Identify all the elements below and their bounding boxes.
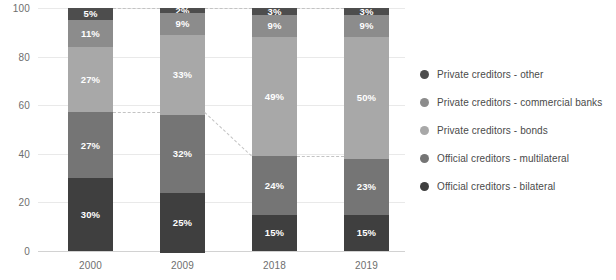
connector-bonds-2018-2019 bbox=[297, 156, 344, 157]
connector-bonds-2009-2018 bbox=[204, 112, 252, 156]
bar-2000[interactable]: 5%11%27%27%30%2000 bbox=[68, 8, 113, 251]
legend-label: Private creditors - other bbox=[437, 69, 543, 80]
bar-segment[interactable]: 27% bbox=[68, 112, 113, 178]
bar-2018[interactable]: 3%9%49%24%15%2018 bbox=[252, 8, 297, 251]
x-axis-tick-label: 2000 bbox=[68, 260, 113, 271]
bar-segment[interactable]: 23% bbox=[344, 159, 389, 215]
bar-2009[interactable]: 2%9%33%32%25%2009 bbox=[160, 8, 205, 251]
bar-segment[interactable]: 9% bbox=[160, 13, 205, 35]
segment-value-label: 23% bbox=[357, 182, 376, 192]
legend-item[interactable]: Official creditors - multilateral bbox=[420, 144, 610, 172]
x-axis-tick-label: 2009 bbox=[160, 260, 205, 271]
segment-value-label: 15% bbox=[265, 228, 284, 238]
y-axis-tick-label: 80 bbox=[18, 51, 30, 62]
segment-value-label: 30% bbox=[81, 210, 100, 220]
segment-value-label: 3% bbox=[268, 8, 282, 15]
connector-bonds-2000-2009 bbox=[113, 112, 160, 113]
bar-segment[interactable]: 9% bbox=[344, 15, 389, 37]
y-axis-tick-label: 0 bbox=[24, 246, 30, 257]
segment-value-label: 25% bbox=[173, 218, 192, 228]
y-axis-tick-label: 20 bbox=[18, 197, 30, 208]
bar-segment[interactable]: 27% bbox=[68, 47, 113, 113]
chart-legend: Private creditors - otherPrivate credito… bbox=[420, 60, 610, 200]
bar-segment[interactable]: 49% bbox=[252, 37, 297, 156]
segment-value-label: 9% bbox=[176, 19, 190, 29]
legend-label: Official creditors - multilateral bbox=[437, 153, 569, 164]
legend-swatch-icon bbox=[420, 98, 429, 107]
segment-value-label: 15% bbox=[357, 228, 376, 238]
bar-segment[interactable]: 3% bbox=[252, 8, 297, 15]
legend-item[interactable]: Private creditors - other bbox=[420, 60, 610, 88]
legend-item[interactable]: Private creditors - bonds bbox=[420, 116, 610, 144]
segment-value-label: 9% bbox=[360, 21, 374, 31]
segment-value-label: 27% bbox=[81, 141, 100, 151]
y-axis-tick-label: 60 bbox=[18, 100, 30, 111]
segment-value-label: 5% bbox=[84, 9, 98, 19]
legend-swatch-icon bbox=[420, 154, 429, 163]
bar-segment[interactable]: 15% bbox=[252, 215, 297, 251]
segment-value-label: 9% bbox=[268, 21, 282, 31]
segment-value-label: 3% bbox=[360, 8, 374, 15]
bar-segment[interactable]: 50% bbox=[344, 37, 389, 159]
segment-value-label: 27% bbox=[81, 75, 100, 85]
legend-swatch-icon bbox=[420, 182, 429, 191]
x-axis-baseline bbox=[38, 251, 405, 252]
segment-value-label: 33% bbox=[173, 70, 192, 80]
y-axis-tick-label: 100 bbox=[13, 3, 30, 14]
bar-segment[interactable]: 24% bbox=[252, 156, 297, 214]
bar-segment[interactable]: 15% bbox=[344, 215, 389, 251]
bar-segment[interactable]: 33% bbox=[160, 35, 205, 115]
bar-2019[interactable]: 3%9%50%23%15%2019 bbox=[344, 8, 389, 251]
bar-segment[interactable]: 9% bbox=[252, 15, 297, 37]
y-axis-tick-label: 40 bbox=[18, 148, 30, 159]
segment-value-label: 11% bbox=[81, 29, 100, 39]
segment-value-label: 49% bbox=[265, 92, 284, 102]
segment-value-label: 24% bbox=[265, 181, 284, 191]
legend-label: Private creditors - bonds bbox=[437, 125, 548, 136]
legend-label: Official creditors - bilateral bbox=[437, 181, 555, 192]
stacked-bar-chart: 0204060801005%11%27%27%30%20002%9%33%32%… bbox=[0, 0, 616, 280]
bar-segment[interactable]: 5% bbox=[68, 8, 113, 20]
legend-item[interactable]: Official creditors - bilateral bbox=[420, 172, 610, 200]
bar-segment[interactable]: 11% bbox=[68, 20, 113, 47]
plot-area: 0204060801005%11%27%27%30%20002%9%33%32%… bbox=[38, 8, 405, 251]
bar-segment[interactable]: 25% bbox=[160, 193, 205, 254]
bar-segment[interactable]: 32% bbox=[160, 115, 205, 193]
bar-segment[interactable]: 30% bbox=[68, 178, 113, 251]
legend-label: Private creditors - commercial banks bbox=[437, 97, 602, 108]
x-axis-tick-label: 2019 bbox=[344, 260, 389, 271]
legend-swatch-icon bbox=[420, 126, 429, 135]
legend-item[interactable]: Private creditors - commercial banks bbox=[420, 88, 610, 116]
segment-value-label: 50% bbox=[357, 93, 376, 103]
x-axis-tick-label: 2018 bbox=[252, 260, 297, 271]
segment-value-label: 32% bbox=[173, 149, 192, 159]
legend-swatch-icon bbox=[420, 70, 429, 79]
bar-segment[interactable]: 3% bbox=[344, 8, 389, 15]
